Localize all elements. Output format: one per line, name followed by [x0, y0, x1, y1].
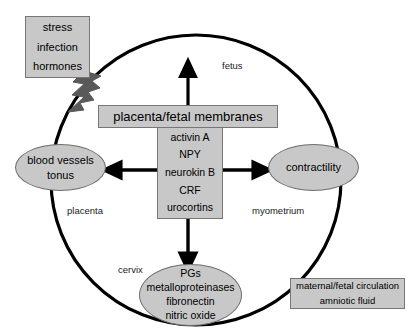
pgs-label: PGs — [180, 267, 200, 281]
nitric-oxide-label: nitric oxide — [165, 309, 215, 323]
myometrium-label: myometrium — [252, 205, 304, 216]
contractility-label: contractility — [286, 160, 341, 175]
maternal-fetal-circulation-label: maternal/fetal circulation — [296, 280, 399, 293]
blood-vessels-label: blood vessels — [27, 153, 94, 168]
diagram-canvas: stress infection hormones placenta/fetal… — [0, 0, 410, 330]
placenta-label: placenta — [67, 205, 103, 216]
mediator-activin-a: activin A — [170, 131, 209, 145]
amniotic-fluid-label: amniotic fluid — [320, 295, 375, 308]
circulation-legend-box: maternal/fetal circulation amniotic flui… — [290, 278, 405, 309]
mediators-box: activin A NPY neurokin B CRF urocortins — [157, 127, 223, 219]
mediator-npy: NPY — [179, 148, 201, 162]
mediator-urocortins: urocortins — [167, 201, 213, 215]
pgs-node: PGs metalloproteinases fibronectin nitri… — [139, 264, 242, 326]
contractility-node: contractility — [268, 144, 359, 191]
placenta-fetal-membranes-label: placenta/fetal membranes — [113, 108, 263, 125]
blood-vessels-tonus-node: blood vessels tonus — [15, 144, 106, 191]
metalloproteinases-label: metalloproteinases — [146, 281, 234, 295]
placenta-fetal-membranes-box: placenta/fetal membranes — [98, 105, 278, 128]
stress-label: stress — [43, 20, 72, 35]
mediator-neurokin-b: neurokin B — [165, 166, 215, 180]
stress-factors-box: stress infection hormones — [25, 16, 90, 78]
infection-label: infection — [37, 40, 78, 55]
tonus-label: tonus — [47, 168, 74, 183]
hormones-label: hormones — [33, 59, 82, 74]
fetus-label: fetus — [222, 60, 243, 71]
fibronectin-label: fibronectin — [166, 295, 214, 309]
cervix-label: cervix — [118, 264, 143, 275]
mediator-crf: CRF — [179, 184, 201, 198]
